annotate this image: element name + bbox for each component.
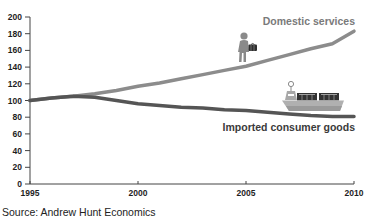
x-tick-label: 2005 (237, 188, 256, 198)
y-tick-label: 180 (8, 29, 22, 39)
y-tick-label: 140 (8, 62, 22, 72)
y-tick-label: 40 (13, 146, 23, 156)
y-tick-label: 200 (8, 12, 22, 22)
x-tick-label: 2010 (345, 188, 364, 198)
y-axis-ticks: 020406080100120140160180200 (8, 12, 30, 189)
container-ship-icon (282, 81, 344, 111)
walking-man-with-briefcase-icon (238, 32, 257, 62)
y-tick-label: 160 (8, 45, 22, 55)
y-tick-label: 80 (13, 112, 23, 122)
domestic-services-label: Domestic services (263, 15, 355, 27)
source-caption: Source: Andrew Hunt Economics (2, 206, 156, 218)
y-tick-label: 20 (13, 162, 23, 172)
y-tick-label: 120 (8, 79, 22, 89)
y-tick-label: 60 (13, 129, 23, 139)
x-tick-label: 1995 (21, 188, 40, 198)
y-tick-label: 100 (8, 96, 22, 106)
domestic-services-line (30, 31, 354, 100)
x-tick-label: 2000 (129, 188, 148, 198)
imported-consumer-goods-label: Imported consumer goods (223, 121, 356, 133)
line-chart: 020406080100120140160180200 199520002005… (0, 0, 370, 219)
